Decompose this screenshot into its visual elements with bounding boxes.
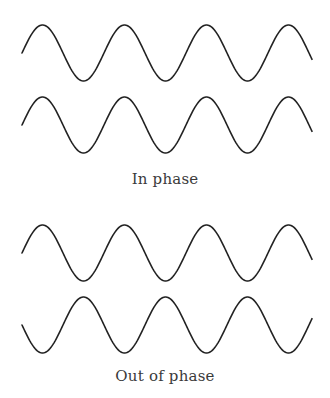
in-phase-group: [22, 25, 312, 153]
in-phase-label: In phase: [0, 170, 330, 188]
out-of-phase-group: [22, 225, 312, 353]
out-of-phase-wave-top: [22, 225, 312, 281]
in-phase-wave-bottom: [22, 97, 312, 153]
out-of-phase-wave-bottom: [22, 297, 312, 353]
in-phase-wave-top: [22, 25, 312, 81]
waves-diagram: [0, 0, 330, 398]
out-of-phase-label: Out of phase: [0, 367, 330, 385]
